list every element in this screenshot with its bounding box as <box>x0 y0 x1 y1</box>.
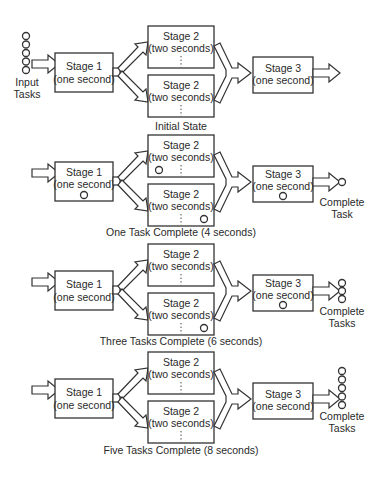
task-token <box>23 50 30 57</box>
label: Stage 2 <box>163 188 199 200</box>
label: (two seconds) <box>148 91 213 103</box>
label: (two seconds) <box>148 309 213 321</box>
label: Stage 2 <box>163 297 199 309</box>
split-arrow-down-icon <box>118 289 148 320</box>
input-label-line1: Input <box>15 76 38 88</box>
panel-one-task-complete: Stage 1 (one second) Stage 2 (two second… <box>32 135 365 238</box>
merge-arrow-icon <box>214 369 251 429</box>
completed-task-queue <box>339 280 346 303</box>
label: (two seconds) <box>148 368 213 380</box>
merge-arrow-icon <box>214 152 251 212</box>
label: (two seconds) <box>148 200 213 212</box>
label: (one second) <box>53 291 114 303</box>
label: (two seconds) <box>148 151 213 163</box>
label: (one second) <box>252 180 313 192</box>
label: Stage 3 <box>265 388 301 400</box>
label: (one second) <box>53 399 114 411</box>
task-token <box>201 325 208 332</box>
label: Complete <box>320 410 365 422</box>
pipeline-diagram: Input Tasks Stage 1 (one second) Stage 2… <box>0 0 382 478</box>
task-token <box>280 302 287 309</box>
label: (two seconds) <box>148 42 213 54</box>
stage1-title: Stage 1 <box>66 60 102 72</box>
completed-task-token <box>339 179 346 186</box>
merge-arrow-icon <box>214 261 251 321</box>
task-token <box>23 58 30 65</box>
stage1-time: (one second) <box>53 73 114 85</box>
label: Stage 1 <box>66 386 102 398</box>
label: Stage 2 <box>163 356 199 368</box>
task-token <box>280 193 287 200</box>
label: Stage 3 <box>265 277 301 289</box>
panel-caption: One Task Complete (4 seconds) <box>106 226 256 238</box>
label: Stage 3 <box>265 62 301 74</box>
output-arrow-icon <box>313 282 340 300</box>
split-arrow-up-icon <box>118 260 148 291</box>
panel-caption: Three Tasks Complete (6 seconds) <box>100 335 263 347</box>
label: Stage 1 <box>66 278 102 290</box>
label: Tasks <box>329 422 356 434</box>
split-arrow-up-icon <box>118 42 148 73</box>
task-token <box>23 67 30 74</box>
task-token <box>23 41 30 48</box>
label: (one second) <box>252 289 313 301</box>
split-arrow-up-icon <box>118 151 148 182</box>
label: Tasks <box>329 317 356 329</box>
label: (one second) <box>252 400 313 412</box>
panel-five-tasks-complete: Stage 1 (one second) Stage 2 (two second… <box>32 352 365 456</box>
panel-three-tasks-complete: Stage 1 (one second) Stage 2 (two second… <box>32 244 365 347</box>
label: Task <box>331 208 353 220</box>
panel-caption: Five Tasks Complete (8 seconds) <box>103 444 258 456</box>
label: (one second) <box>53 178 114 190</box>
task-token <box>81 192 88 199</box>
output-arrow-icon <box>313 64 340 82</box>
output-arrow-icon <box>313 390 340 408</box>
split-arrow-up-icon <box>118 368 148 399</box>
merge-arrow-icon <box>214 43 251 103</box>
label: Stage 2 <box>163 405 199 417</box>
label: (one second) <box>252 74 313 86</box>
label: (two seconds) <box>148 260 213 272</box>
label: Stage 2 <box>163 248 199 260</box>
panel-caption: Initial State <box>155 120 207 132</box>
task-token <box>201 216 208 223</box>
label: Stage 2 <box>163 30 199 42</box>
split-arrow-down-icon <box>118 180 148 211</box>
split-arrow-down-icon <box>118 397 148 428</box>
label: Stage 1 <box>66 166 102 178</box>
label: Complete <box>320 305 365 317</box>
label: (two seconds) <box>148 417 213 429</box>
input-label-line2: Tasks <box>14 88 41 100</box>
task-token <box>23 33 30 40</box>
input-task-queue <box>23 33 30 74</box>
task-token <box>156 167 163 174</box>
completed-task-queue <box>339 368 346 409</box>
label: Complete <box>320 196 365 208</box>
split-arrow-down-icon <box>118 71 148 102</box>
output-arrow-icon <box>313 173 340 191</box>
label: Stage 2 <box>163 139 199 151</box>
label: Stage 3 <box>265 168 301 180</box>
label: Stage 2 <box>163 79 199 91</box>
panel-initial-state: Input Tasks Stage 1 (one second) Stage 2… <box>14 26 340 132</box>
